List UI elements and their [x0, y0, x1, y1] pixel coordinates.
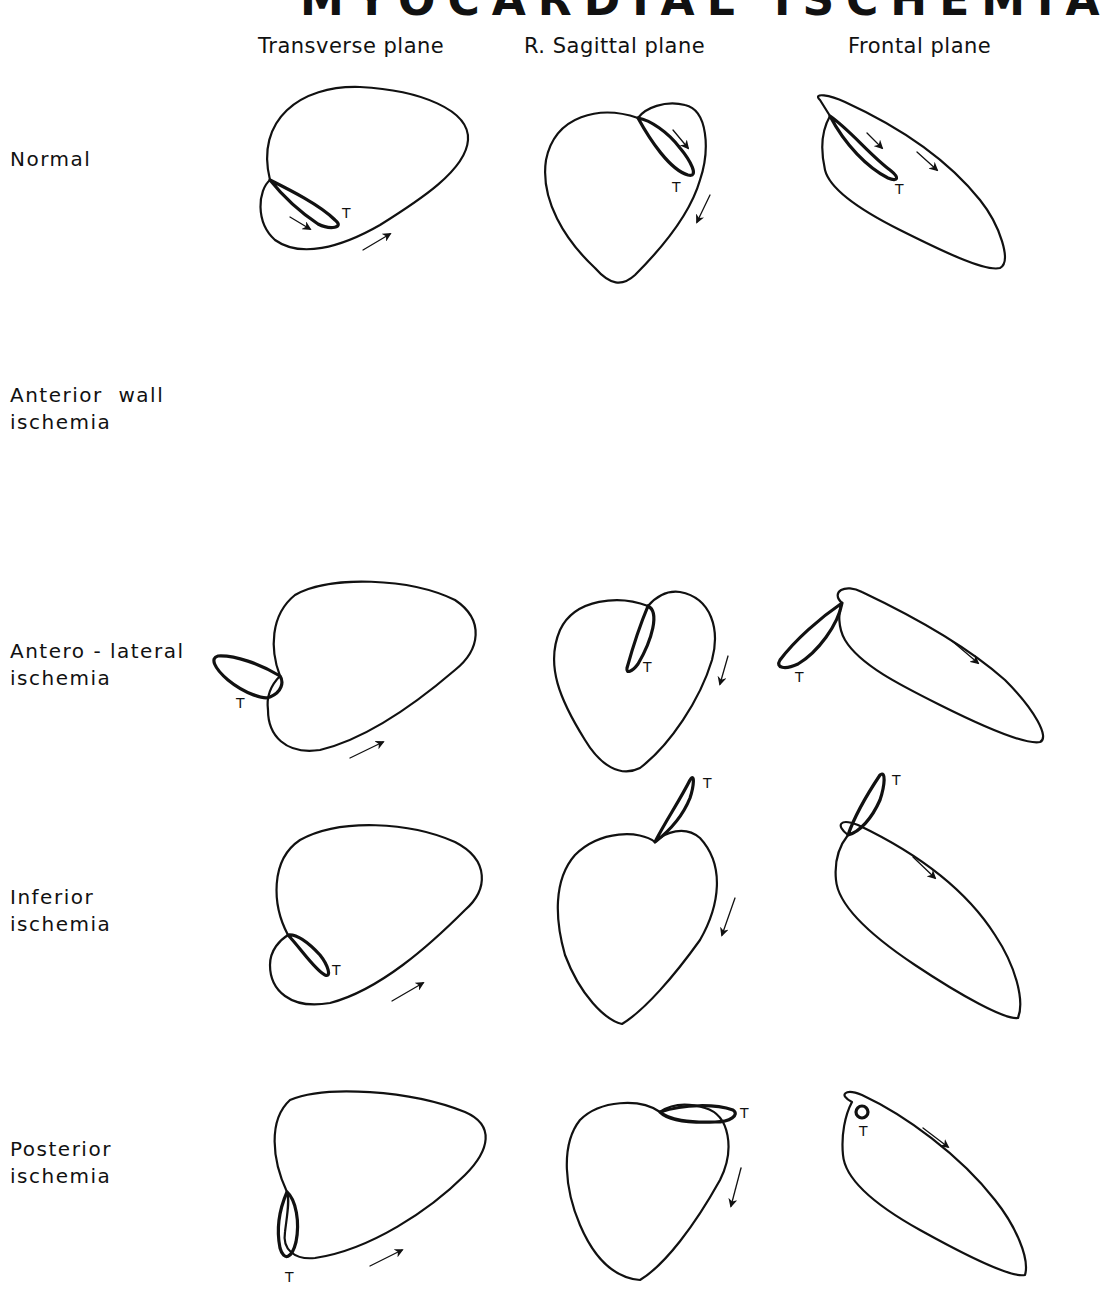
- loop-antero-lateral-frontal: T: [779, 588, 1043, 742]
- t-marker: T: [341, 205, 351, 221]
- t-marker: T: [891, 772, 901, 788]
- t-marker: T: [331, 962, 341, 978]
- t-marker: T: [858, 1123, 868, 1139]
- loop-antero-lateral-transverse: T: [214, 582, 476, 758]
- loop-normal-transverse: T: [260, 87, 468, 250]
- loop-normal-frontal: T: [818, 95, 1005, 268]
- t-marker: T: [894, 181, 904, 197]
- loop-inferior-frontal: T: [836, 772, 1021, 1018]
- loop-normal-sagittal: T: [545, 103, 710, 282]
- t-marker: T: [739, 1105, 749, 1121]
- loop-posterior-sagittal: T: [567, 1103, 749, 1280]
- loop-inferior-sagittal: T: [558, 775, 735, 1024]
- loop-posterior-transverse: T: [275, 1091, 486, 1285]
- t-marker: T: [702, 775, 712, 791]
- loop-inferior-transverse: T: [270, 825, 482, 1004]
- t-marker: T: [642, 659, 652, 675]
- t-marker: T: [671, 179, 681, 195]
- t-marker: T: [794, 669, 804, 685]
- loop-posterior-frontal: T: [842, 1092, 1025, 1275]
- t-marker: T: [235, 695, 245, 711]
- t-marker: T: [284, 1269, 294, 1285]
- loop-antero-lateral-sagittal: T: [554, 592, 728, 772]
